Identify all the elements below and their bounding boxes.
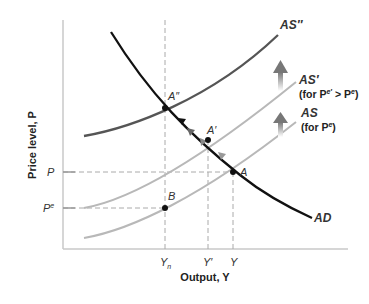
ad-as-chart: A″ A′ A B AS″ AS′ (for Pe′ > Pe) AS (for… bbox=[0, 0, 369, 304]
up-arrow-icon bbox=[273, 112, 288, 137]
y-axis-title: Price level, P bbox=[26, 111, 38, 179]
as-prime-curve bbox=[84, 82, 296, 208]
as-curve bbox=[84, 122, 296, 238]
point-a bbox=[230, 169, 236, 175]
label-b: B bbox=[168, 190, 175, 202]
point-a-double-prime bbox=[162, 105, 168, 111]
point-a-prime bbox=[205, 137, 211, 143]
label-as-prime-note: (for Pe′ > Pe) bbox=[299, 88, 358, 100]
tick-label-yprime: Y′ bbox=[203, 256, 213, 268]
label-a-double-prime: A″ bbox=[167, 90, 180, 102]
label-as-note: (for Pe) bbox=[301, 121, 336, 133]
label-as: AS bbox=[300, 106, 318, 120]
ad-movement-arrows bbox=[178, 118, 226, 160]
ticks bbox=[63, 172, 75, 208]
x-axis-title: Output, Y bbox=[180, 271, 230, 283]
up-arrow-icon bbox=[273, 60, 288, 91]
point-b bbox=[162, 205, 168, 211]
tick-label-pe: Pe bbox=[43, 202, 54, 214]
tick-label-p: P bbox=[47, 166, 55, 178]
tick-label-yn: Yn bbox=[160, 256, 171, 270]
label-ad: AD bbox=[313, 211, 332, 225]
label-a-prime: A′ bbox=[206, 124, 217, 136]
label-as-double-prime: AS″ bbox=[279, 18, 304, 32]
tick-label-y: Y bbox=[230, 256, 238, 268]
label-as-prime: AS′ bbox=[298, 73, 320, 87]
label-a: A bbox=[239, 166, 247, 178]
